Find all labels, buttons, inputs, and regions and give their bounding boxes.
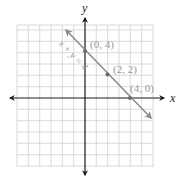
coordinate-plane: x y (0, 4) (2, 2) (4, 0) x + y = 4 xyxy=(0,0,179,178)
point-2-2 xyxy=(106,73,110,77)
point-label-4-0: (4, 0) xyxy=(130,82,154,95)
point-0-4 xyxy=(83,49,87,53)
x-axis-label: x xyxy=(169,91,176,105)
y-axis-label: y xyxy=(81,1,88,15)
point-4-0 xyxy=(128,96,132,100)
point-label-2-2: (2, 2) xyxy=(113,63,137,76)
point-label-0-4: (0, 4) xyxy=(90,38,114,51)
